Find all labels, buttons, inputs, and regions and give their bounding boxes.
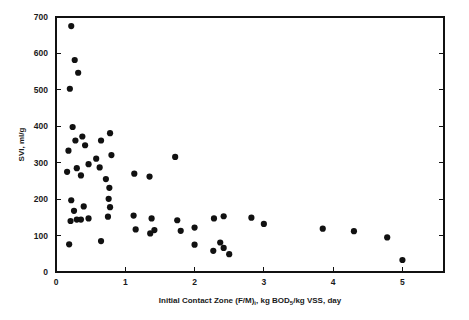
scatter-plot-figure: 0100200300400500600700012345 SVI, ml/gIn… (0, 0, 469, 320)
data-point (146, 173, 152, 179)
data-point (79, 133, 85, 139)
data-point (105, 214, 111, 220)
data-point (172, 154, 178, 160)
plot-frame (56, 17, 444, 272)
data-point (78, 172, 84, 178)
data-point (85, 161, 91, 167)
data-point (68, 23, 74, 29)
data-point (221, 245, 227, 251)
data-point (75, 70, 81, 76)
data-point (174, 217, 180, 223)
data-point (98, 238, 104, 244)
x-tick-label: 5 (400, 277, 405, 287)
data-point (81, 203, 87, 209)
data-point (226, 251, 232, 257)
data-point (131, 212, 137, 218)
data-point (399, 257, 405, 263)
x-tick-label: 2 (192, 277, 197, 287)
data-point (384, 234, 390, 240)
data-point (68, 197, 74, 203)
data-point (248, 215, 254, 221)
data-point (67, 86, 73, 92)
data-point (97, 164, 103, 170)
data-point (65, 148, 71, 154)
data-point (67, 218, 73, 224)
x-tick-label: 0 (54, 277, 59, 287)
y-axis-title: SVI, ml/g (17, 128, 26, 162)
data-point (149, 215, 155, 221)
data-point (211, 215, 217, 221)
data-point (93, 156, 99, 162)
data-point (72, 57, 78, 63)
y-tick-label: 200 (34, 194, 48, 204)
data-point (103, 176, 109, 182)
data-point (210, 248, 216, 254)
data-point (261, 221, 267, 227)
data-point (82, 142, 88, 148)
axis-tick-marks (56, 17, 444, 272)
y-tick-label: 100 (34, 231, 48, 241)
data-point (70, 124, 76, 130)
data-point (320, 226, 326, 232)
data-point (66, 241, 72, 247)
y-tick-label: 300 (34, 158, 48, 168)
data-point (106, 196, 112, 202)
data-point (106, 185, 112, 191)
x-tick-label: 3 (261, 277, 266, 287)
y-tick-label: 0 (43, 267, 48, 277)
y-tick-label: 700 (34, 12, 48, 22)
y-tick-label: 500 (34, 85, 48, 95)
data-point (191, 224, 197, 230)
x-tick-label: 4 (331, 277, 336, 287)
x-tick-label: 1 (123, 277, 128, 287)
axis-frame (56, 17, 444, 272)
data-point (147, 230, 153, 236)
plot-canvas: 0100200300400500600700012345 SVI, ml/gIn… (0, 0, 469, 320)
data-point (217, 239, 223, 245)
data-point-markers (64, 23, 406, 263)
data-point (107, 130, 113, 136)
data-point (85, 215, 91, 221)
data-point (108, 152, 114, 158)
data-point (191, 242, 197, 248)
y-tick-label: 600 (34, 48, 48, 58)
y-tick-label: 400 (34, 121, 48, 131)
data-point (221, 213, 227, 219)
data-point (98, 137, 104, 143)
data-point (64, 169, 70, 175)
data-point (351, 228, 357, 234)
data-point (107, 204, 113, 210)
axis-tick-labels: 0100200300400500600700012345 (34, 12, 405, 287)
x-axis-title: Initial Contact Zone (F/M)i, kg BOD5/kg … (159, 296, 342, 306)
data-point (131, 171, 137, 177)
data-point (78, 216, 84, 222)
data-point (71, 208, 77, 214)
data-point (72, 137, 78, 143)
axis-titles: SVI, ml/gInitial Contact Zone (F/M)i, kg… (17, 128, 342, 307)
data-point (74, 165, 80, 171)
data-point (133, 226, 139, 232)
data-point (178, 228, 184, 234)
